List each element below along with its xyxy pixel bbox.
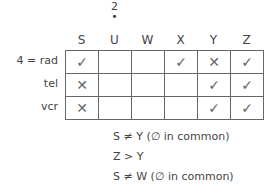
grid-cell[interactable]: ✓ (66, 51, 99, 74)
column-header-u: U (98, 33, 131, 47)
grid-cell[interactable] (99, 97, 132, 120)
grid-cell[interactable]: ✓ (198, 97, 231, 120)
grid-cell[interactable]: ✕ (66, 97, 99, 120)
row-label-vcr: vcr (0, 100, 58, 113)
clue-s-not-y: S ≠ Y (∅ in common) (113, 130, 230, 143)
grid-cell[interactable]: ✕ (66, 74, 99, 97)
grid-row-tel: ✕ ✓ ✓ (66, 74, 264, 97)
column-header-s: S (65, 33, 98, 47)
grid-cell[interactable] (99, 51, 132, 74)
clue-s-not-w: S ≠ W (∅ in common) (113, 170, 234, 183)
row-label-tel: tel (0, 77, 58, 90)
grid-row-vcr: ✕ ✓ ✓ (66, 97, 264, 120)
logic-grid: ✓ ✓ ✕ ✓ ✕ ✓ ✓ ✕ ✓ ✓ (65, 50, 264, 120)
grid-cell[interactable] (132, 51, 165, 74)
column-header-z: Z (230, 33, 263, 47)
grid-cell[interactable]: ✓ (198, 74, 231, 97)
column-header-x: X (164, 33, 197, 47)
row-label-rad: 4 = rad (0, 54, 58, 67)
grid-cell[interactable]: ✕ (198, 51, 231, 74)
grid-cell[interactable]: ✓ (165, 51, 198, 74)
grid-cell[interactable] (132, 97, 165, 120)
grid-cell[interactable] (132, 74, 165, 97)
column-header-w: W (131, 33, 164, 47)
grid-cell[interactable] (165, 97, 198, 120)
annotation-dot: • (98, 12, 131, 22)
grid-cell[interactable]: ✓ (231, 74, 264, 97)
grid-cell[interactable] (165, 74, 198, 97)
grid-cell[interactable]: ✓ (231, 51, 264, 74)
grid-cell[interactable] (99, 74, 132, 97)
clue-z-greater-y: Z > Y (113, 150, 143, 163)
grid-row-rad: ✓ ✓ ✕ ✓ (66, 51, 264, 74)
column-header-y: Y (197, 33, 230, 47)
grid-cell[interactable]: ✓ (231, 97, 264, 120)
column-u-annotation: 2 • (98, 2, 131, 22)
